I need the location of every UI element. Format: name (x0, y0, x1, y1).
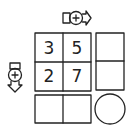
right-cell-bottom[interactable] (96, 61, 124, 89)
grid-cell-r2c2: 7 (63, 62, 91, 90)
add-arrow-right-icon (63, 11, 91, 25)
grid-cell-r1c1: 3 (35, 34, 63, 62)
add-arrow-down-icon (8, 63, 22, 92)
grid-cell-r1c2: 5 (63, 34, 91, 62)
bottom-cell-left[interactable] (35, 95, 63, 123)
bottom-cell-right[interactable] (63, 95, 91, 123)
grid-cell-r2c1: 2 (35, 62, 63, 90)
right-cell-top[interactable] (96, 33, 124, 61)
corner-circle (95, 94, 125, 124)
